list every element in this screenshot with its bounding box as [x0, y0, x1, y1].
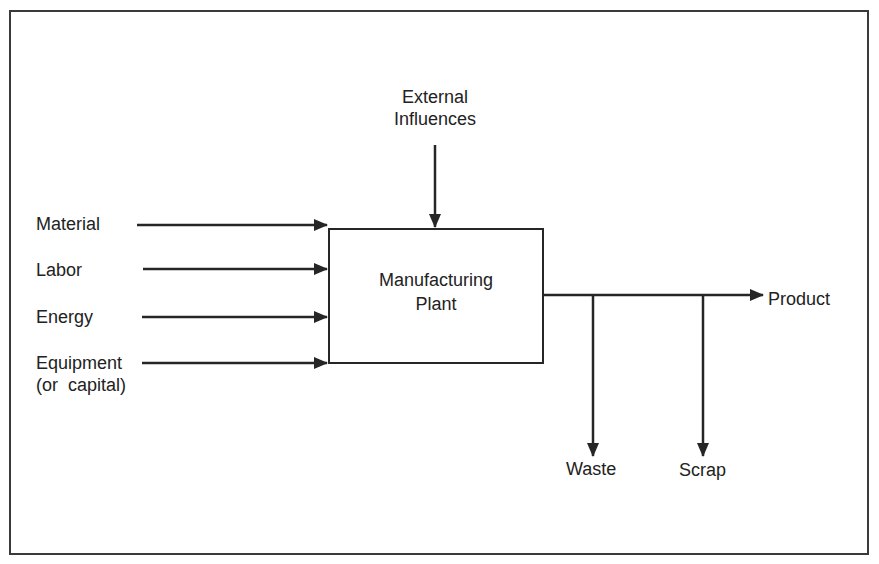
equipment-label-line1: Equipment	[36, 352, 126, 374]
product-label: Product	[768, 288, 830, 310]
external-label-line1: External	[375, 86, 495, 108]
material-label: Material	[36, 213, 100, 235]
external-influences-label: External Influences	[375, 86, 495, 130]
manufacturing-plant-label: Manufacturing Plant	[328, 268, 544, 316]
scrap-label: Scrap	[679, 459, 726, 481]
labor-label: Labor	[36, 259, 82, 281]
energy-label: Energy	[36, 306, 93, 328]
plant-label-line1: Manufacturing	[328, 268, 544, 292]
equipment-label: Equipment (or capital)	[36, 352, 126, 396]
plant-label-line2: Plant	[328, 292, 544, 316]
external-label-line2: Influences	[375, 108, 495, 130]
equipment-label-line2: (or capital)	[36, 374, 126, 396]
waste-label: Waste	[566, 458, 616, 480]
